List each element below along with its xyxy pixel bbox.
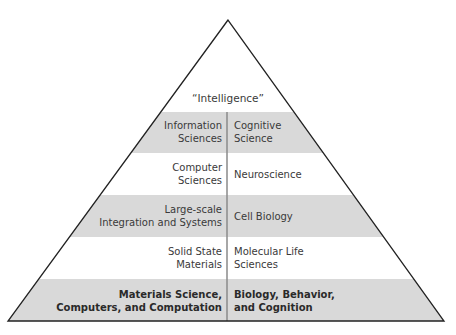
tier-5-right: Biology, Behavior,and Cognition <box>234 288 335 314</box>
tier-2-left: ComputerSciences <box>172 161 222 187</box>
tier-3-right: Cell Biology <box>234 210 293 223</box>
tier-3-left: Large-scaleIntegration and Systems <box>99 203 222 229</box>
tier-2-right: Neuroscience <box>234 168 302 181</box>
tier-4-right: Molecular LifeSciences <box>234 245 304 271</box>
tier-1-left: InformationSciences <box>164 119 222 145</box>
band-information-cognitive <box>0 112 456 153</box>
apex-label: “Intelligence” <box>0 92 456 104</box>
band-integration-cell <box>0 195 456 237</box>
tier-5-left: Materials Science,Computers, and Computa… <box>56 288 222 314</box>
band-computer-neuro <box>0 153 456 195</box>
tier-1-right: CognitiveScience <box>234 119 281 145</box>
tier-4-left: Solid StateMaterials <box>168 245 222 271</box>
pyramid-graphic <box>0 0 456 335</box>
